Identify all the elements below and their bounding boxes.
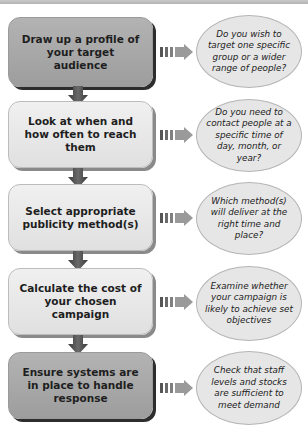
- step-box-timing: Look at when and how often to reach them: [8, 101, 153, 168]
- top-divider-bar: [0, 0, 308, 4]
- striped-arrow-right-icon: [160, 380, 194, 396]
- question-text: Examine whether your campaign is likely …: [205, 281, 293, 327]
- question-bubble-audience: Do you wish to target one specific group…: [196, 15, 302, 88]
- striped-arrow-right-icon: [160, 294, 194, 310]
- step-box-campaign-cost: Calculate the cost of your chosen campai…: [8, 268, 153, 335]
- striped-arrow-right-icon: [160, 44, 194, 60]
- step-label: Ensure systems are in place to handle re…: [19, 366, 142, 405]
- striped-arrow-right-icon: [160, 127, 194, 143]
- step-box-publicity-method: Select appropriate publicity method(s): [8, 184, 153, 251]
- step-box-handle-response: Ensure systems are in place to handle re…: [8, 352, 153, 419]
- step-label: Calculate the cost of your chosen campai…: [19, 282, 142, 321]
- question-bubble-demand: Check that staff levels and stocks are s…: [196, 351, 302, 425]
- question-bubble-timing: Do you need to contact people at a speci…: [196, 99, 302, 172]
- question-text: Do you need to contact people at a speci…: [205, 107, 293, 165]
- question-text: Check that staff levels and stocks are s…: [205, 365, 293, 411]
- question-bubble-method: Which method(s) will deliver at the righ…: [196, 182, 302, 255]
- question-text: Which method(s) will deliver at the righ…: [205, 196, 293, 242]
- step-label: Look at when and how often to reach them: [19, 115, 142, 154]
- striped-arrow-right-icon: [160, 210, 194, 226]
- question-text: Do you wish to target one specific group…: [205, 29, 293, 75]
- step-label: Select appropriate publicity method(s): [19, 205, 142, 231]
- step-box-profile-audience: Draw up a profile of your target audienc…: [8, 17, 153, 87]
- question-bubble-objectives: Examine whether your campaign is likely …: [196, 266, 302, 341]
- step-label: Draw up a profile of your target audienc…: [19, 33, 142, 72]
